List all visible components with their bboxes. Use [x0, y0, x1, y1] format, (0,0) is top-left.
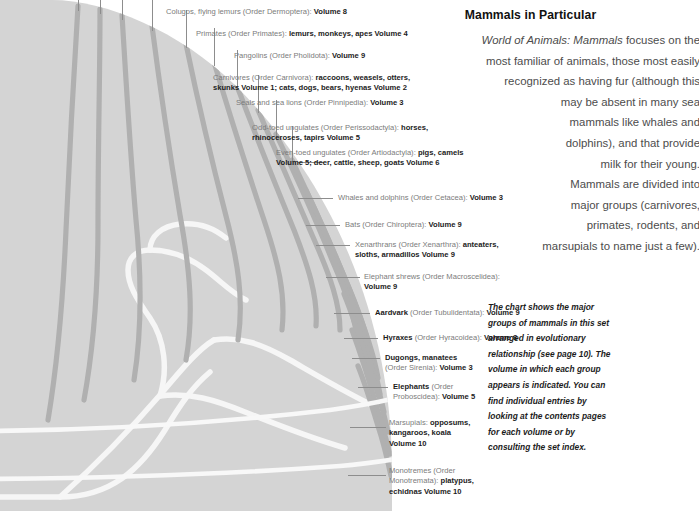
- intro-line-1: World of Animals: Mammals focuses on the: [396, 30, 699, 51]
- leader-line-macroscelidea: [326, 277, 360, 278]
- leader-line-monotremata: [348, 475, 386, 476]
- intro-line-3: recognized as having fur (although this: [396, 71, 699, 92]
- label-carnivora[interactable]: Carnivores (Order Carnivora): raccoons, …: [213, 73, 410, 94]
- leader-line-tubulidentata: [334, 313, 370, 314]
- caption-line-7: find individual entries by: [488, 394, 698, 410]
- leader-line-offscreen-2: [100, 0, 101, 14]
- book-page-spread: Colugos, flying lemurs (Order Dermoptera…: [0, 0, 699, 511]
- intro-line-8: Mammals are divided into: [396, 174, 699, 195]
- caption-line-1: The chart shows the major: [488, 300, 698, 316]
- book-title-italic: World of Animals: Mammals: [481, 34, 622, 46]
- intro-paragraph: World of Animals: Mammals focuses on the…: [396, 30, 699, 257]
- caption-line-2: groups of mammals in this set: [488, 316, 698, 332]
- label-chiroptera-name: Bats: [345, 220, 360, 229]
- leader-line-offscreen-1: [78, 0, 79, 11]
- label-perissodactyla-name: Odd-toed ungulates: [252, 123, 319, 132]
- label-dermoptera-volume: Volume 8: [314, 7, 347, 16]
- label-artiodactyla-name: Even-toed ungulates: [276, 148, 346, 157]
- intro-line-2: most familiar of animals, those most eas…: [396, 51, 699, 72]
- label-macroscelidea-volume: Volume 9: [364, 282, 397, 291]
- caption-line-10: consulting the set index.: [488, 440, 698, 456]
- label-pinnipedia[interactable]: Seals and sea lions (Order Pinnipedia): …: [236, 98, 403, 108]
- label-pinnipedia-name: Seals and sea lions: [236, 98, 302, 107]
- label-primates-order: (Order Primates):: [228, 29, 287, 38]
- label-perissodactyla-order: (Order Perissodactyla):: [321, 123, 399, 132]
- label-dermoptera-name: Colugos, flying lemurs: [166, 7, 241, 16]
- intro-line-10: primates, rodents, and: [396, 215, 699, 236]
- leader-line-hyracoidea: [344, 338, 378, 339]
- caption-line-8: looking at the contents pages: [488, 409, 698, 425]
- leader-line-proboscidea: [358, 387, 388, 388]
- leader-line-sirenia: [352, 358, 380, 359]
- caption-line-5: volume in which each group: [488, 362, 698, 378]
- chart-caption: The chart shows the major groups of mamm…: [488, 300, 698, 456]
- label-primates-volume: lemurs, monkeys, apes Volume 4: [289, 29, 408, 38]
- leader-line-marsupials: [350, 427, 386, 428]
- label-pholidota-order: (Order Pholidota):: [269, 51, 329, 60]
- label-carnivora-line1: Carnivores (Order Carnivora): raccoons, …: [213, 73, 410, 83]
- leader-line-cetacea: [298, 198, 333, 199]
- label-primates-name: Primates: [196, 29, 226, 38]
- editorial-column: Mammals in Particular World of Animals: …: [398, 0, 699, 511]
- label-pinnipedia-order: (Order Pinnipedia):: [304, 98, 368, 107]
- label-dermoptera-order: (Order Dermoptera):: [243, 7, 312, 16]
- label-pholidota-volume: Volume 9: [332, 51, 365, 60]
- intro-line-11: marsupials to name just a few).: [396, 236, 699, 257]
- label-pholidota-name: Pangolins: [234, 51, 267, 60]
- label-carnivora-name: Carnivores: [213, 73, 250, 82]
- label-carnivora-tail2: skunks Volume 1; cats, dogs, bears, hyen…: [213, 83, 407, 92]
- leader-line-xenarthra: [316, 245, 350, 246]
- intro-line-6: dolphins), and that provide: [396, 133, 699, 154]
- label-carnivora-line2: skunks Volume 1; cats, dogs, bears, hyen…: [213, 83, 410, 93]
- label-dermoptera[interactable]: Colugos, flying lemurs (Order Dermoptera…: [166, 7, 347, 17]
- caption-line-9: for each volume or by: [488, 425, 698, 441]
- caption-line-6: appears is indicated. You can: [488, 378, 698, 394]
- caption-line-3: arranged in evolutionary: [488, 331, 698, 347]
- section-title: Mammals in Particular: [398, 8, 663, 22]
- label-pholidota[interactable]: Pangolins (Order Pholidota): Volume 9: [234, 51, 365, 61]
- leader-line-offscreen-4: [152, 0, 153, 31]
- leader-line-chiroptera: [306, 225, 340, 226]
- intro-line-9: major groups (carnivores,: [396, 195, 699, 216]
- leader-line-offscreen-3: [122, 0, 123, 20]
- caption-line-4: relationship (see page 10). The: [488, 347, 698, 363]
- intro-line-5: mammals like whales and: [396, 112, 699, 133]
- label-primates[interactable]: Primates (Order Primates): lemurs, monke…: [196, 29, 408, 39]
- label-xenarthra-name: Xenarthrans: [355, 240, 396, 249]
- intro-line-7: milk for their young.: [396, 154, 699, 175]
- label-carnivora-order: (Order Carnivora):: [252, 73, 314, 82]
- label-perissodactyla-tail2: rhinoceroses, tapirs Volume 5: [252, 133, 360, 142]
- intro-line-4: may be absent in many sea: [396, 92, 699, 113]
